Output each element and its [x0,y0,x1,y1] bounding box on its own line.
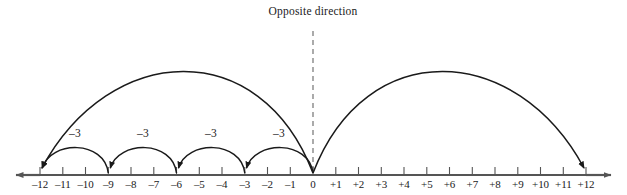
number-line-figure: Opposite direction –3 –3 –3 –3 –12 –11 –… [0,0,627,195]
tick-label-plus-10: +10 [532,178,549,190]
tick-label-plus-7: +7 [467,178,479,190]
tick-label-minus-10: –10 [77,178,93,190]
tick-label-plus-6: +6 [444,178,456,190]
big-arc-right [313,71,584,173]
tick-label-plus-9: +9 [512,178,524,190]
tick-label-plus-2: +2 [353,178,365,190]
jump-arc-label-4: –3 [69,127,81,139]
tick-label-minus-6: –6 [171,178,182,190]
tick-label-minus-2: –2 [262,178,273,190]
jump-arc-label-1: –3 [273,127,285,139]
tick-label-plus-5: +5 [421,178,433,190]
jump-arc-label-2: –3 [205,127,217,139]
tick-label-minus-1: –1 [285,178,296,190]
tick-label-plus-1: +1 [330,178,342,190]
figure-title: Opposite direction [269,5,358,17]
tick-label-minus-12: –12 [32,178,48,190]
jump-arc-minus3-to-minus6 [179,148,245,173]
tick-label-minus-9: –9 [103,178,114,190]
tick-label-plus-4: +4 [398,178,410,190]
big-arc-left [42,71,313,173]
number-line-canvas [0,0,627,195]
tick-label-zero: 0 [310,178,315,190]
jump-arc-minus6-to-minus9 [110,148,176,173]
tick-label-minus-8: –8 [126,178,137,190]
tick-label-minus-3: –3 [239,178,250,190]
tick-label-plus-12: +12 [578,178,595,190]
tick-label-minus-11: –11 [55,178,71,190]
tick-label-minus-7: –7 [148,178,159,190]
tick-label-plus-3: +3 [376,178,388,190]
jump-arc-label-3: –3 [137,127,149,139]
tick-label-plus-11: +11 [555,178,572,190]
tick-label-minus-4: –4 [217,178,228,190]
tick-label-minus-5: –5 [194,178,205,190]
tick-label-plus-8: +8 [489,178,501,190]
